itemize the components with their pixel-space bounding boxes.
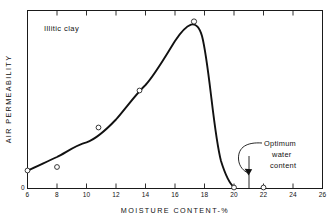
x-tick-label: 12 <box>112 191 120 198</box>
data-point <box>55 165 60 170</box>
x-tick-label: 20 <box>230 191 238 198</box>
data-curve <box>28 24 235 187</box>
chart-figure: 6 8 10 12 14 16 18 20 22 24 26 0 MOISTUR… <box>0 0 331 222</box>
data-point <box>96 125 101 130</box>
x-tick-label: 6 <box>26 191 30 198</box>
x-tick-label: 10 <box>83 191 91 198</box>
x-axis-ticks-bottom <box>28 184 323 189</box>
data-point-markers <box>25 19 266 190</box>
data-point <box>191 19 196 24</box>
x-tick-label: 24 <box>289 191 297 198</box>
series-title: Illitic clay <box>44 24 79 33</box>
x-tick-label: 14 <box>142 191 150 198</box>
y-origin-label: 0 <box>21 184 25 191</box>
annotation-line-3: content <box>270 161 296 170</box>
data-point <box>25 168 30 173</box>
x-tick-label: 8 <box>55 191 59 198</box>
y-axis-title: AIR PERMEABILITY <box>4 55 13 144</box>
annotation-leader-line <box>238 143 262 173</box>
x-axis-title: MOISTURE CONTENT-% <box>121 206 229 215</box>
x-axis-ticks-top <box>57 11 293 16</box>
data-point <box>137 88 142 93</box>
annotation-line-1: Optimum <box>264 139 296 148</box>
x-tick-label: 16 <box>171 191 179 198</box>
x-tick-label: 22 <box>260 191 268 198</box>
annotation-line-2: water <box>271 150 292 159</box>
data-point <box>232 185 237 190</box>
x-tick-label: 26 <box>319 191 327 198</box>
data-point <box>261 185 266 190</box>
x-tick-label: 18 <box>201 191 209 198</box>
x-axis-tick-labels: 6 8 10 12 14 16 18 20 22 24 26 <box>26 191 327 198</box>
